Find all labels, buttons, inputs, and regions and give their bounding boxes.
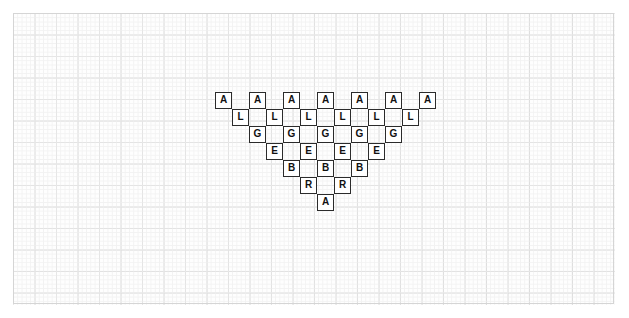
letter-cell: L [334, 109, 351, 126]
letter-cell: L [232, 109, 249, 126]
letter-cell: A [385, 92, 402, 109]
letter-cell: L [368, 109, 385, 126]
letter-cell: A [419, 92, 436, 109]
letter-cell: B [283, 160, 300, 177]
letter-triangle-lattice: AAAAAAALLLLLLGGGGGEEEEBBBRRA [0, 0, 629, 318]
letter-cell: E [334, 143, 351, 160]
letter-cell: A [215, 92, 232, 109]
letter-cell: G [351, 126, 368, 143]
letter-cell: G [249, 126, 266, 143]
letter-cell: G [283, 126, 300, 143]
letter-cell: R [334, 177, 351, 194]
letter-cell: R [300, 177, 317, 194]
letter-cell: E [300, 143, 317, 160]
letter-cell: A [249, 92, 266, 109]
letter-cell: L [402, 109, 419, 126]
letter-cell: E [266, 143, 283, 160]
letter-cell: G [385, 126, 402, 143]
letter-cell: E [368, 143, 385, 160]
screenshot-canvas: AAAAAAALLLLLLGGGGGEEEEBBBRRA [0, 0, 629, 318]
letter-cell: G [317, 126, 334, 143]
letter-cell: L [266, 109, 283, 126]
letter-cell: L [300, 109, 317, 126]
letter-cell: A [351, 92, 368, 109]
letter-cell: A [317, 194, 334, 211]
letter-cell: B [317, 160, 334, 177]
letter-cell: A [317, 92, 334, 109]
letter-cell: B [351, 160, 368, 177]
letter-cell: A [283, 92, 300, 109]
